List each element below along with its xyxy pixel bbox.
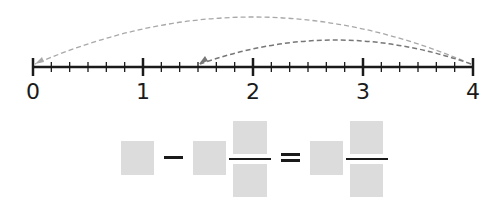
term2-numerator-box[interactable]: [233, 121, 267, 154]
equals-sign-top: [281, 153, 300, 156]
tick-label-0: 0: [18, 80, 48, 104]
equals-sign-bottom: [281, 159, 300, 162]
result-whole-box[interactable]: [310, 141, 343, 175]
tick-label-1: 1: [128, 80, 158, 104]
minus-sign: [164, 156, 183, 159]
tick-label-3: 3: [348, 80, 378, 104]
jump-arc-4-to-1.5: [200, 40, 471, 64]
jump-arc-4-to-0: [35, 17, 471, 64]
term1-whole-box[interactable]: [121, 141, 154, 175]
tick-label-2: 2: [238, 80, 268, 104]
term2-fraction-bar: [229, 158, 271, 160]
number-line: 01234: [0, 0, 502, 110]
tick-label-4: 4: [458, 80, 488, 104]
result-denominator-box[interactable]: [350, 164, 383, 197]
result-numerator-box[interactable]: [350, 121, 383, 154]
term2-denominator-box[interactable]: [233, 164, 267, 197]
result-fraction-bar: [346, 158, 388, 160]
arrowhead-icon: [35, 57, 44, 64]
term2-whole-box[interactable]: [193, 141, 226, 175]
